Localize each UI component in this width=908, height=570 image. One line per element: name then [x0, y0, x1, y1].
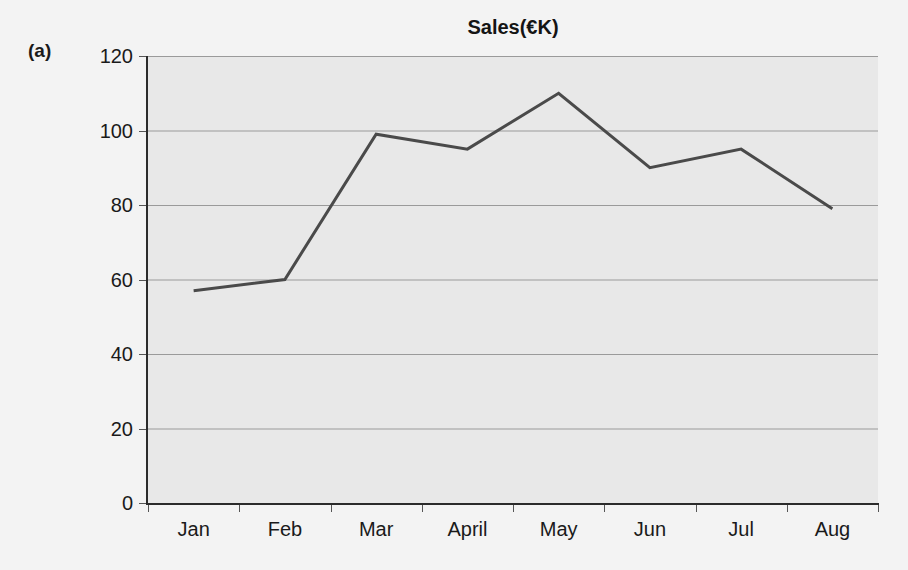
x-axis-tick-label-wrap: April — [422, 515, 513, 543]
y-axis-tick-label: 80 — [30, 195, 133, 215]
x-axis-tick-label: Jun — [604, 515, 695, 543]
y-axis-tick — [139, 503, 146, 504]
figure-panel: (a) Sales(€K) 020406080100120 JanFebMarA… — [0, 0, 908, 570]
x-axis-tick-label: Jul — [696, 515, 787, 543]
x-axis-tick-label: Jan — [148, 515, 239, 543]
line-chart-svg — [148, 56, 878, 503]
y-axis-tick-label: 100 — [30, 121, 133, 141]
x-axis-tick-label: May — [513, 515, 604, 543]
y-axis-tick — [139, 354, 146, 355]
y-axis-tick-label: 20 — [30, 419, 133, 439]
x-axis-tick — [331, 505, 332, 512]
x-axis-tick-label-wrap: Jan — [148, 515, 239, 543]
x-axis-tick — [878, 505, 879, 512]
x-axis-tick-label: Feb — [239, 515, 330, 543]
y-axis-tick — [139, 280, 146, 281]
x-axis-tick-label-wrap: Aug — [787, 515, 878, 543]
plot-area — [148, 56, 878, 503]
x-axis-tick-label: April — [422, 515, 513, 543]
y-axis-tick-label: 60 — [30, 270, 133, 290]
chart-title: Sales(€K) — [148, 16, 878, 39]
x-axis-tick — [787, 505, 788, 512]
x-axis-tick — [513, 505, 514, 512]
x-axis-tick — [422, 505, 423, 512]
x-axis-tick-label: Mar — [331, 515, 422, 543]
x-axis-tick — [148, 505, 149, 512]
sales-data-line — [194, 93, 833, 290]
gridlines-group — [148, 57, 878, 430]
y-axis-tick-label: 0 — [30, 493, 133, 513]
y-axis-tick — [139, 205, 146, 206]
x-axis-tick-label-wrap: Jun — [604, 515, 695, 543]
x-axis-tick-label-wrap: May — [513, 515, 604, 543]
x-axis-tick — [604, 505, 605, 512]
x-axis-tick-label: Aug — [787, 515, 878, 543]
y-axis-line — [146, 56, 148, 505]
y-axis-tick — [139, 131, 146, 132]
y-axis-tick — [139, 429, 146, 430]
x-axis-tick-label-wrap: Jul — [696, 515, 787, 543]
x-axis-tick — [239, 505, 240, 512]
y-axis-tick-label: 120 — [30, 46, 133, 66]
x-axis-tick-label-wrap: Mar — [331, 515, 422, 543]
x-axis-tick-label-wrap: Feb — [239, 515, 330, 543]
y-axis-tick — [139, 56, 146, 57]
x-axis-tick — [696, 505, 697, 512]
y-axis-tick-label: 40 — [30, 344, 133, 364]
